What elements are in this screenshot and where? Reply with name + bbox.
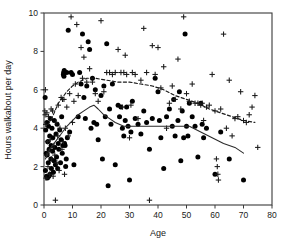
data-point-circle [144,120,149,125]
data-point-plus [224,126,229,131]
data-point-circle [121,133,126,138]
data-point-plus [247,112,252,117]
data-point-circle [127,178,132,183]
data-point-circle [175,118,180,123]
data-point-circle [70,72,75,77]
data-point-circle [227,156,232,161]
data-point-circle [128,130,133,135]
y-axis-ticks: 0246810 [29,8,44,210]
data-point-plus [238,89,243,94]
data-point-circle [150,116,155,121]
data-point-circle [96,137,101,142]
data-point-plus [123,53,128,58]
series-filled-circles [43,28,246,189]
x-tick-label: 20 [96,210,106,220]
data-point-plus [184,91,189,96]
data-point-plus [175,56,180,61]
data-point-circle [107,107,112,112]
data-point-circle [141,108,146,113]
data-point-plus [115,47,120,52]
data-point-circle [183,32,188,37]
data-point-circle [157,118,162,123]
data-point-plus [152,72,157,77]
data-point-circle [117,114,122,119]
data-point-plus [64,104,69,109]
data-point-circle [147,147,152,152]
x-tick-label: 50 [182,210,192,220]
data-point-circle [66,28,71,33]
data-point-plus [90,79,95,84]
x-tick-label: 0 [42,210,47,220]
data-point-circle [173,133,178,138]
y-tick-label: 6 [33,85,38,95]
y-axis-title: Hours walkabout per day [3,60,13,160]
data-point-plus [167,101,172,106]
data-point-circle [106,183,111,188]
data-point-circle [110,82,115,87]
data-point-circle [156,89,161,94]
data-point-circle [43,168,48,173]
data-point-plus [216,177,221,182]
chart-canvas: 01020304050607080 0246810 Age Hours walk… [0,0,288,242]
data-point-circle [241,178,246,183]
data-point-circle [113,162,118,167]
data-point-plus [255,145,260,150]
data-point-plus [127,135,132,140]
data-point-plus [209,72,214,77]
data-point-circle [59,114,64,119]
data-point-plus [141,26,146,31]
plot-frame [44,13,272,205]
data-point-plus [87,66,92,71]
data-point-circle [164,114,169,119]
data-point-plus [138,78,143,83]
data-point-plus [155,45,160,50]
data-point-plus [190,81,195,86]
data-point-plus [95,99,100,104]
series-plus-symbols [42,14,260,203]
y-tick-label: 0 [33,200,38,210]
data-point-plus [215,164,220,169]
data-point-circle [167,107,172,112]
data-point-circle [80,32,85,37]
data-point-plus [81,54,86,59]
data-point-plus [76,93,81,98]
data-point-circle [63,164,68,169]
data-point-circle [123,118,128,123]
y-tick-label: 2 [33,162,38,172]
data-point-circle [49,126,54,131]
x-tick-label: 80 [267,210,277,220]
x-tick-label: 60 [210,210,220,220]
data-point-circle [101,83,106,88]
data-point-plus [71,99,76,104]
data-point-circle [158,135,163,140]
data-point-plus [252,93,257,98]
x-tick-label: 70 [239,210,249,220]
data-point-circle [185,133,190,138]
data-point-plus [147,198,152,203]
data-point-circle [86,39,91,44]
data-point-circle [71,162,76,167]
y-tick-label: 4 [33,123,38,133]
data-point-circle [77,70,82,75]
plot-border [44,13,272,205]
data-point-circle [181,135,186,140]
data-point-plus [74,22,79,27]
data-point-plus [93,91,98,96]
y-tick-label: 8 [33,46,38,56]
data-point-plus [214,156,219,161]
data-point-plus [170,83,175,88]
data-point-circle [190,114,195,119]
data-point-circle [81,95,86,100]
x-tick-label: 10 [68,210,78,220]
data-point-plus [98,18,103,23]
data-point-circle [64,70,69,75]
data-point-plus [78,45,83,50]
data-point-circle [218,130,223,135]
data-point-plus [229,133,234,138]
data-point-circle [99,93,104,98]
data-point-plus [144,70,149,75]
data-point-circle [178,158,183,163]
x-axis-ticks: 01020304050607080 [42,205,277,220]
data-point-circle [161,166,166,171]
data-point-plus [227,78,232,83]
